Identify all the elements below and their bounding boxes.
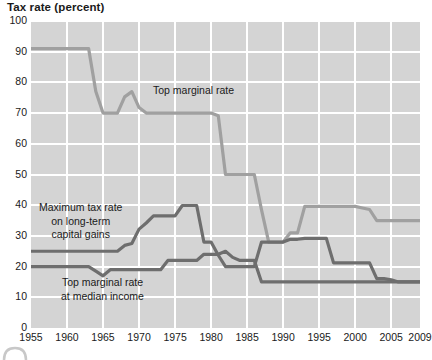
y-tick-label: 90 xyxy=(0,45,27,57)
x-tick-label: 2005 xyxy=(379,331,402,343)
x-tick-label: 1990 xyxy=(271,331,294,343)
y-tick-label: 20 xyxy=(0,260,27,272)
annotation-capital-gains-line1: Maximum tax rate xyxy=(39,201,122,215)
y-tick-label: 50 xyxy=(0,168,27,180)
plot-area: Top marginal rate Maximum tax rate on lo… xyxy=(31,21,420,328)
x-tick-label: 1970 xyxy=(127,331,150,343)
y-tick-label: 80 xyxy=(0,75,27,87)
x-tick-label: 2009 xyxy=(408,331,431,343)
x-tick-label: 1965 xyxy=(91,331,114,343)
x-tick-label: 1955 xyxy=(19,331,42,343)
x-tick-label: 1960 xyxy=(55,331,78,343)
y-tick-label: 10 xyxy=(0,290,27,302)
y-tick-label: 100 xyxy=(0,14,27,26)
corner-decoration xyxy=(2,345,28,360)
annotation-capital-gains-line2: on long-term xyxy=(39,215,122,229)
x-tick-label: 1980 xyxy=(199,331,222,343)
y-tick-label: 70 xyxy=(0,106,27,118)
x-tick-label: 2000 xyxy=(343,331,366,343)
y-tick-label: 60 xyxy=(0,137,27,149)
annotation-top-marginal-rate: Top marginal rate xyxy=(153,84,234,98)
x-tick-label: 1975 xyxy=(163,331,186,343)
annotation-capital-gains-line3: capital gains xyxy=(39,228,122,242)
y-tick-label: 40 xyxy=(0,198,27,210)
chart-title: Tax rate (percent) xyxy=(7,1,104,13)
y-tick-label: 30 xyxy=(0,229,27,241)
annotation-median-income: Top marginal rate at median income xyxy=(61,276,144,303)
x-tick-label: 1985 xyxy=(235,331,258,343)
annotation-median-income-line2: at median income xyxy=(61,290,144,304)
x-tick-label: 1995 xyxy=(307,331,330,343)
annotation-median-income-line1: Top marginal rate xyxy=(61,276,144,290)
annotation-capital-gains: Maximum tax rate on long-term capital ga… xyxy=(39,201,122,242)
